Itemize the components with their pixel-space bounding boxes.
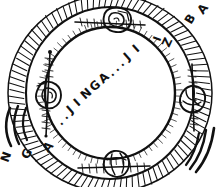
- drawing-canvas: . . J I N G A . . . J I Z I B A N G A: [0, 0, 219, 187]
- jinga-ring-illustration: . . J I N G A . . . J I Z I B A N G A: [0, 0, 219, 187]
- band-char-a: A: [194, 0, 211, 16]
- band-char-a2: A: [40, 138, 57, 155]
- bolt-left[interactable]: [36, 50, 61, 138]
- inner-text-jinga: . . J I N G A . . . J I: [54, 42, 142, 128]
- band-char-b: B: [182, 11, 199, 26]
- inner-text-char-3: I: [71, 96, 84, 109]
- motion-arcs-left: [6, 106, 27, 146]
- band-char-n: N: [0, 150, 14, 164]
- inner-circle: [45, 27, 175, 159]
- inner-text-char-11: I: [130, 42, 143, 55]
